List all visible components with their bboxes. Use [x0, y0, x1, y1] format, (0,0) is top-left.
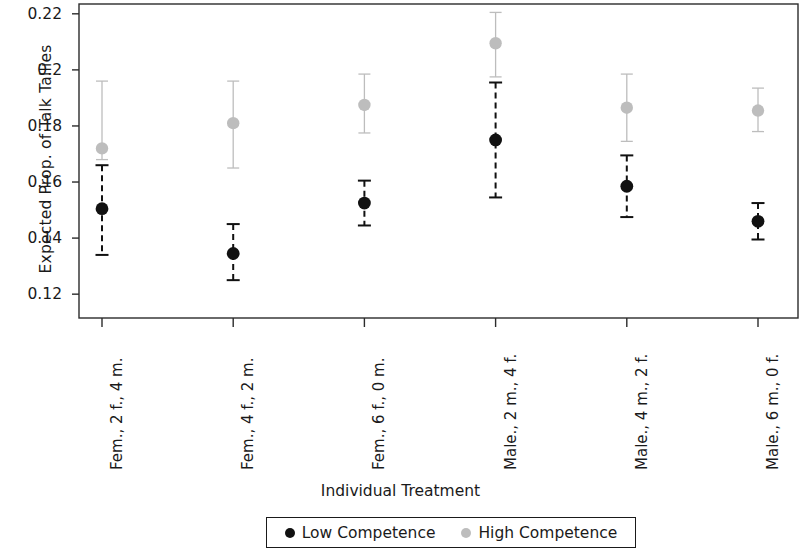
- legend-label: Low Competence: [302, 524, 436, 542]
- legend-entry: High Competence: [461, 524, 617, 542]
- data-point-group: [621, 74, 633, 141]
- chart-legend: Low CompetenceHigh Competence: [266, 517, 636, 548]
- data-point-group: [752, 88, 764, 131]
- data-point-group: [489, 83, 502, 198]
- data-point-marker: [752, 215, 765, 228]
- plot-frame: [79, 4, 798, 318]
- data-point-group: [489, 12, 501, 76]
- series-low-competence: [96, 83, 765, 281]
- data-point-marker: [358, 99, 370, 111]
- x-axis-title: Individual Treatment: [0, 482, 801, 500]
- plot-area: [0, 0, 801, 340]
- x-tick-label: Fem., 6 f., 0 m.: [370, 358, 388, 470]
- series-high-competence: [96, 12, 764, 168]
- data-point-group: [358, 74, 370, 133]
- data-point-marker: [358, 197, 371, 210]
- x-tick-label: Male., 4 m., 2 f.: [633, 354, 651, 470]
- data-point-marker: [489, 134, 502, 147]
- x-tick-label: Fem., 4 f., 2 m.: [239, 358, 257, 470]
- data-point-marker: [96, 202, 109, 215]
- data-point-group: [96, 81, 108, 160]
- data-point-marker: [621, 102, 633, 114]
- data-point-marker: [620, 180, 633, 193]
- legend-dot-icon: [285, 528, 295, 538]
- x-tick-label: Male., 2 m., 4 f.: [502, 354, 520, 470]
- data-point-marker: [752, 104, 764, 116]
- data-point-marker: [227, 247, 240, 260]
- legend-dot-icon: [461, 528, 471, 538]
- x-tick-label: Male., 6 m., 0 f.: [764, 354, 782, 470]
- data-point-marker: [96, 142, 108, 154]
- x-tick-label: Fem., 2 f., 4 m.: [108, 358, 126, 470]
- data-point-group: [752, 203, 765, 239]
- legend-entry: Low Competence: [285, 524, 436, 542]
- data-point-group: [227, 81, 239, 168]
- chart-figure: Expected Prop. of Talk Tallies 0.120.140…: [0, 0, 801, 557]
- data-point-group: [358, 181, 371, 226]
- data-point-marker: [227, 117, 239, 129]
- data-point-group: [620, 155, 633, 217]
- data-point-marker: [489, 37, 501, 49]
- legend-label: High Competence: [478, 524, 617, 542]
- data-point-group: [227, 224, 240, 280]
- data-point-group: [96, 165, 109, 255]
